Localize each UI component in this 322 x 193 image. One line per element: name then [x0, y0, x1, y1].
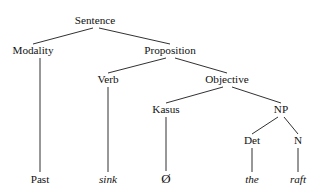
branch-proposition-to-verb — [108, 58, 166, 73]
tree-node-verb: Verb — [97, 73, 119, 85]
tree-node-raft: raft — [290, 173, 307, 185]
tree-node-modality: Modality — [12, 44, 53, 56]
tree-node-sink: sink — [99, 173, 118, 185]
tree-node-null: Ø — [161, 171, 170, 186]
branch-sentence-to-proposition — [99, 28, 170, 44]
tree-node-n: N — [294, 134, 302, 146]
syntax-tree-figure: SentenceModalityPropositionVerbObjective… — [0, 0, 322, 193]
branch-proposition-to-objective — [175, 58, 227, 73]
tree-node-the: the — [245, 173, 259, 185]
tree-node-det: Det — [244, 134, 261, 146]
tree-canvas: SentenceModalityPropositionVerbObjective… — [0, 0, 322, 193]
tree-node-kasus: Kasus — [152, 103, 179, 115]
tree-node-proposition: Proposition — [144, 44, 196, 56]
tree-node-sentence: Sentence — [75, 14, 115, 26]
tree-node-np: NP — [274, 103, 288, 115]
node-label-group: SentenceModalityPropositionVerbObjective… — [12, 14, 306, 186]
branch-np-to-det — [252, 117, 278, 134]
tree-node-objective: Objective — [205, 73, 249, 85]
branch-np-to-n — [284, 117, 298, 134]
branch-objective-to-kasus — [166, 87, 223, 103]
tree-node-past: Past — [31, 173, 51, 185]
branch-sentence-to-modality — [33, 28, 93, 44]
branch-objective-to-np — [232, 87, 281, 103]
